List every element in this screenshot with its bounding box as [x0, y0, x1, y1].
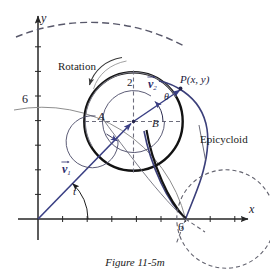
- angle-t-label: t: [73, 186, 76, 197]
- y-axis-label: y: [41, 12, 46, 24]
- center-path-dashed-arc: [16, 22, 184, 46]
- figure-caption: Figure 11-5m: [0, 256, 270, 268]
- x-axis-tick-label-6: 6: [178, 221, 184, 233]
- vector-v1-label: v1: [62, 163, 71, 177]
- vector-v1-arrow-overbar: [61, 160, 70, 164]
- rolling-center-dot: [132, 120, 136, 124]
- vector-v2-letter: v: [148, 77, 153, 91]
- vector-v1: [38, 124, 131, 220]
- point-p-dot: [179, 87, 183, 91]
- theta-label: θ: [164, 92, 169, 102]
- cusp-radius-dashed-2: [186, 219, 205, 232]
- arc-b-label: B: [152, 118, 159, 129]
- epicycloid-label: Epicycloid: [200, 134, 248, 145]
- vector-v1-subscript: 1: [67, 169, 71, 177]
- radius-two-label: 2: [127, 77, 133, 88]
- y-axis-tick-label-6: 6: [22, 93, 28, 105]
- point-p-label: P(x, y): [180, 74, 209, 85]
- x-axis-label: x: [249, 203, 254, 215]
- vector-v2-label: v2: [148, 78, 157, 92]
- vector-v2-subscript: 2: [153, 84, 157, 92]
- figure-container: y x 6 6 Rotation Epicycloid P(x, y) 2 A …: [0, 0, 270, 275]
- rotation-label: Rotation: [58, 61, 96, 72]
- vector-v2-arrow-overbar: [147, 75, 156, 79]
- arc-a-label: A: [98, 111, 105, 122]
- vector-v1-letter: v: [62, 162, 67, 176]
